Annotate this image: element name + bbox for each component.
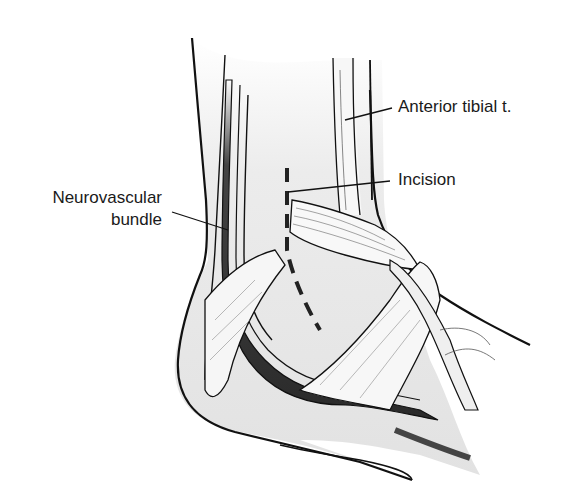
label-neurovascular-line2: bundle xyxy=(32,210,162,230)
label-neurovascular-line1: Neurovascular xyxy=(32,188,162,208)
label-anterior-tibial: Anterior tibial t. xyxy=(398,97,511,117)
label-incision: Incision xyxy=(398,170,456,190)
ankle-illustration xyxy=(0,0,564,494)
